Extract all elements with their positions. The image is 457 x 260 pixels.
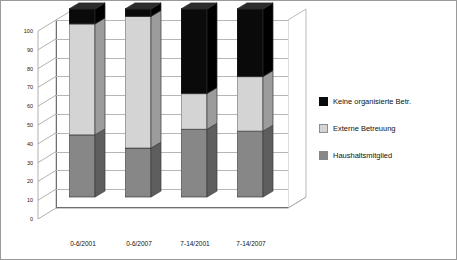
bar-0-6-2001-shape[interactable] (69, 1, 117, 260)
bar-0-6-2007-shape[interactable] (125, 1, 173, 260)
chart-legend: Keine organisierte Betr. Externe Betreuu… (319, 96, 451, 177)
y-tick-label-10: 10 (7, 197, 33, 203)
bar-7-14-2007-shape[interactable] (237, 1, 285, 260)
x-label-7-14-2007: 7-14/2007 (223, 240, 279, 247)
y-tick-label-100: 100 (7, 28, 33, 34)
y-tick-label-80: 80 (7, 66, 33, 72)
bar-7-14-2001-shape[interactable] (181, 1, 229, 260)
y-tick-label-70: 70 (7, 84, 33, 90)
y-tick-label-90: 90 (7, 47, 33, 53)
y-tick-label-30: 30 (7, 160, 33, 166)
legend-label-externe-betreuung: Externe Betreuung (333, 124, 396, 133)
y-tick-label-60: 60 (7, 103, 33, 109)
x-label-0-6-2001: 0-6/2001 (55, 240, 111, 247)
y-tick-label-50: 50 (7, 122, 33, 128)
y-tick-label-0: 0 (7, 216, 33, 222)
legend-item-keine-organisierte-betr[interactable]: Keine organisierte Betr. (319, 96, 451, 106)
chart-container: 100 90 80 70 60 50 40 30 20 10 0 (0, 0, 457, 260)
legend-swatch-black-icon (319, 97, 328, 106)
legend-item-externe-betreuung[interactable]: Externe Betreuung (319, 123, 451, 133)
legend-item-haushaltsmitglied[interactable]: Haushaltsmitglied (319, 150, 451, 160)
legend-swatch-mid-gray-icon (319, 151, 328, 160)
x-label-7-14-2001: 7-14/2001 (167, 240, 223, 247)
x-label-0-6-2007: 0-6/2007 (111, 240, 167, 247)
legend-label-haushaltsmitglied: Haushaltsmitglied (333, 151, 392, 160)
y-tick-label-20: 20 (7, 178, 33, 184)
legend-swatch-light-gray-icon (319, 124, 328, 133)
legend-label-keine-organisierte-betr: Keine organisierte Betr. (333, 97, 411, 106)
y-tick-label-40: 40 (7, 141, 33, 147)
